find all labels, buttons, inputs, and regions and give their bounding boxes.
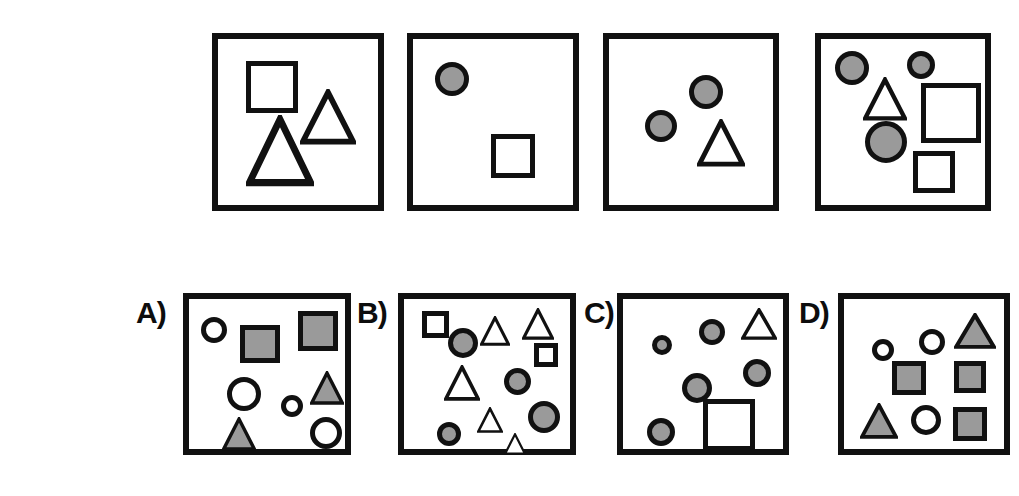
option-c[interactable] xyxy=(617,293,789,455)
sequence-panel-1-white-triangle-2 xyxy=(246,115,314,187)
option-a-white-circle-3 xyxy=(227,377,261,411)
sequence-panel-3-gray-circle-0 xyxy=(689,75,723,109)
option-b-white-triangle-2 xyxy=(480,316,510,346)
option-c-gray-circle-0 xyxy=(652,335,672,355)
option-b-white-triangle-3 xyxy=(522,308,554,340)
option-c-white-square-6 xyxy=(703,399,755,451)
option-d-label: D) xyxy=(799,298,829,328)
sequence-panel-4-white-square-3 xyxy=(921,83,981,143)
sequence-panel-2-gray-circle-0 xyxy=(435,62,469,96)
option-b-white-triangle-8 xyxy=(477,407,503,433)
option-b[interactable] xyxy=(398,293,576,455)
option-b-gray-circle-7 xyxy=(528,401,560,433)
option-c-white-triangle-2 xyxy=(741,308,777,340)
option-c-gray-circle-5 xyxy=(647,418,675,446)
sequence-panel-3 xyxy=(603,33,779,211)
option-a-label: A) xyxy=(136,298,166,328)
option-d-gray-triangle-5 xyxy=(860,403,898,439)
option-a-white-circle-7 xyxy=(310,417,342,449)
sequence-panel-3-white-triangle-2 xyxy=(697,119,745,167)
option-a-gray-triangle-5 xyxy=(310,371,344,405)
option-b-gray-circle-6 xyxy=(504,368,531,395)
sequence-panel-4-white-triangle-2 xyxy=(863,77,907,121)
option-b-white-square-0 xyxy=(422,311,449,338)
sequence-panel-4-gray-circle-4 xyxy=(865,121,907,163)
option-b-white-square-4 xyxy=(534,343,558,367)
option-c-gray-circle-3 xyxy=(743,359,771,387)
option-a[interactable] xyxy=(183,293,351,455)
sequence-panel-1-white-square-0 xyxy=(246,61,298,113)
sequence-panel-4-white-square-5 xyxy=(913,151,955,193)
option-d[interactable] xyxy=(838,293,1010,455)
option-d-white-circle-0 xyxy=(872,339,894,361)
sequence-panel-3-gray-circle-1 xyxy=(645,110,677,142)
sequence-panel-4 xyxy=(815,33,991,211)
option-b-gray-circle-9 xyxy=(437,422,461,446)
option-a-white-circle-4 xyxy=(281,395,303,417)
option-c-label: C) xyxy=(584,298,614,328)
sequence-panel-2-white-square-1 xyxy=(491,134,535,178)
option-d-gray-triangle-2 xyxy=(954,313,996,349)
option-d-white-circle-1 xyxy=(919,329,945,355)
option-b-white-triangle-10 xyxy=(504,433,526,455)
option-d-white-circle-6 xyxy=(911,405,941,435)
sequence-panel-4-gray-circle-1 xyxy=(907,51,935,79)
option-d-gray-square-3 xyxy=(892,361,926,395)
option-a-gray-square-1 xyxy=(240,325,280,363)
sequence-panel-2 xyxy=(407,33,579,211)
option-d-gray-square-4 xyxy=(954,361,986,393)
option-a-gray-square-2 xyxy=(298,311,338,351)
option-b-gray-circle-1 xyxy=(448,328,478,358)
option-b-white-triangle-5 xyxy=(444,365,480,401)
sequence-panel-1 xyxy=(212,33,384,211)
option-d-gray-square-7 xyxy=(953,407,987,441)
figure-canvas: A)B)C)D) xyxy=(0,0,1019,496)
option-a-white-circle-0 xyxy=(201,317,227,343)
option-a-gray-triangle-6 xyxy=(222,417,256,451)
option-c-gray-circle-1 xyxy=(699,319,725,345)
option-b-label: B) xyxy=(357,298,387,328)
